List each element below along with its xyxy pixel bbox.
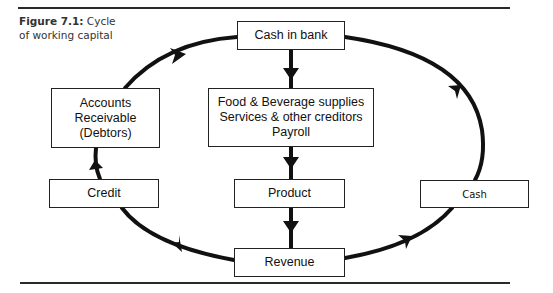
node-accounts-receivable: Accounts Receivable (Debtors) [51,88,160,148]
supplies-line-1: Food & Beverage supplies [218,95,365,110]
node-credit: Credit [49,179,159,208]
node-cash: Cash [420,180,529,208]
arrow-down-icon [283,68,299,80]
receivable-line-2: Receivable [75,111,137,126]
node-product: Product [234,179,345,208]
arrow-up-icon [89,160,103,170]
arrow-down-icon [283,157,299,169]
arrow-left-icon [172,235,182,252]
node-supplies: Food & Beverage supplies Services & othe… [208,88,374,147]
arrow-up-left-icon [448,85,461,99]
receivable-line-1: Accounts [80,96,131,111]
arc-receivable-to-bank [125,37,237,88]
receivable-line-3: (Debtors) [79,126,131,141]
supplies-line-3: Payroll [272,125,310,140]
arc-revenue-to-cash [345,208,452,258]
arrow-down-icon [283,221,299,233]
node-cash-in-bank: Cash in bank [237,21,345,50]
supplies-line-2: Services & other creditors [219,110,362,125]
arc-revenue-to-credit [122,208,234,260]
node-revenue: Revenue [234,248,345,277]
